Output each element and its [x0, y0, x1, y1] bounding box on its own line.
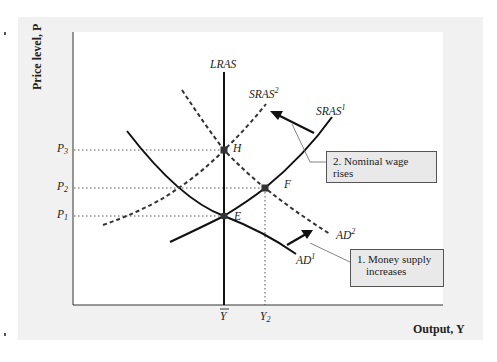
point-e-marker	[221, 213, 228, 220]
y2-tick-label: Y2	[260, 310, 270, 324]
ad-shift-arrowhead-icon	[301, 230, 313, 239]
point-h-label: H	[233, 142, 241, 154]
ad2-label-base: AD	[336, 229, 351, 241]
wage-callout-box: 2. Nominal wage rises	[326, 151, 437, 183]
sras-shift-arrow	[278, 115, 314, 133]
money-callout-line1: 1. Money supply	[357, 253, 437, 265]
sras2-curve	[103, 104, 266, 225]
sras1-label-base: SRAS	[316, 105, 342, 117]
ad1-label-base: AD	[296, 254, 311, 266]
ad2-label-sup: 2	[351, 227, 355, 236]
p2-tick-label: P2	[57, 180, 68, 194]
sras1-label-sup: 1	[342, 103, 346, 112]
ad1-label: AD1	[296, 252, 315, 266]
p3-sub: 3	[64, 147, 68, 156]
ad2-curve	[182, 90, 330, 234]
y-axis-label: Price level, P	[30, 24, 45, 90]
point-f-label: F	[284, 178, 291, 190]
p3-tick-label: P3	[57, 142, 68, 156]
sras2-label: SRAS2	[249, 86, 279, 100]
sras1-curve	[170, 117, 332, 242]
money-callout-line2: increases	[357, 265, 437, 277]
wage-callout-text: 2. Nominal wage rises	[333, 155, 408, 179]
ad-shift-arrow	[287, 234, 306, 245]
sras2-label-sup: 2	[275, 86, 279, 95]
point-h-marker	[221, 147, 228, 154]
money-callout-box: 1. Money supply increases	[350, 249, 444, 287]
point-f-marker	[262, 185, 269, 192]
p2-sub: 2	[64, 185, 68, 194]
lras-label: LRAS	[210, 58, 236, 70]
ybar-tick-label: Y	[220, 310, 226, 322]
x-axis-label: Output, Y	[413, 322, 465, 337]
money-callout-leader	[310, 243, 350, 262]
p1-sub: 1	[64, 213, 68, 222]
ad2-label: AD2	[336, 227, 355, 241]
p3-base: P	[57, 142, 64, 154]
ad1-label-sup: 1	[311, 252, 315, 261]
page-edge-mark	[4, 32, 6, 35]
sras2-label-base: SRAS	[249, 88, 275, 100]
y2-sub: 2	[266, 315, 270, 324]
sras1-label: SRAS1	[316, 103, 346, 117]
p2-base: P	[57, 180, 64, 192]
page-edge-mark	[4, 333, 6, 336]
p1-base: P	[57, 208, 64, 220]
p1-tick-label: P1	[57, 208, 68, 222]
point-e-label: E	[234, 210, 241, 222]
